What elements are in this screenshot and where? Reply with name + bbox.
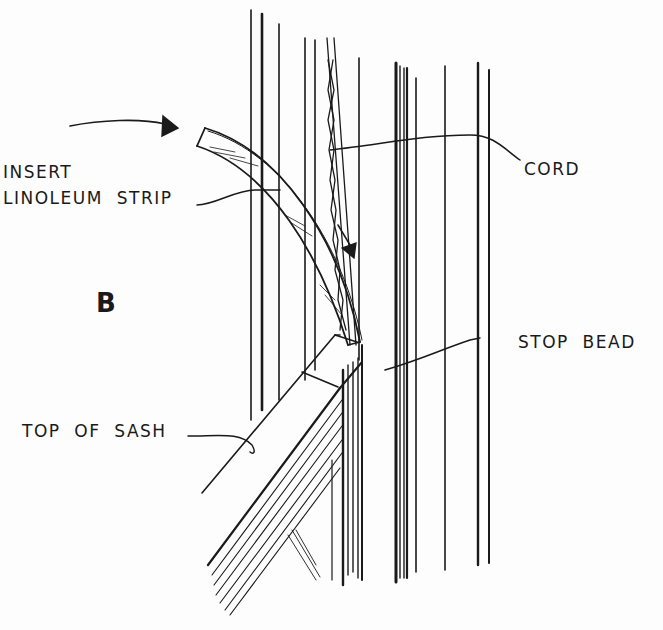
leader-stop-bead [385,338,480,370]
insertion-direction-arrow [70,116,178,136]
frame-lines-right [359,58,489,582]
label-stop-bead: STOP BEAD [518,332,636,353]
frame-lines-left [251,10,315,420]
label-cord: CORD [524,159,580,180]
leader-top-of-sash [188,435,254,453]
label-linoleum-strip: LINOLEUM STRIP [3,188,172,209]
label-top-of-sash: TOP OF SASH [22,421,167,442]
panel-letter: B [96,293,116,314]
downward-direction-arrow [338,225,356,258]
sash-top-rail [202,335,362,615]
callout-leaders [188,135,520,453]
label-insert: INSERT [3,162,72,183]
window-sash-diagram: INSERT LINOLEUM STRIP CORD STOP BEAD TOP… [0,0,663,630]
leader-linoleum-strip [197,190,280,205]
